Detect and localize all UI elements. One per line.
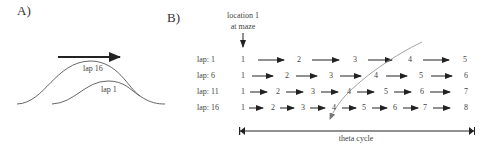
location-label-line1: location 1: [227, 11, 259, 20]
position-number: 4: [374, 71, 378, 80]
panel-b-graphics: [240, 33, 474, 131]
position-number: 5: [419, 71, 423, 80]
row-label-lap6: lap: 6: [197, 71, 215, 80]
curve-label-lap16: lap 16: [83, 64, 103, 73]
position-number: 1: [241, 71, 245, 80]
position-number: 2: [297, 55, 301, 64]
position-number: 6: [464, 71, 468, 80]
curve-label-lap1: lap 1: [101, 85, 117, 94]
position-number: 2: [276, 87, 280, 96]
position-number: 4: [408, 55, 412, 64]
position-number: 4: [332, 103, 336, 112]
position-number: 1: [241, 103, 245, 112]
position-number: 4: [347, 87, 351, 96]
position-number: 3: [311, 87, 315, 96]
location-label-line2: at maze: [231, 22, 256, 31]
panel-a-label: A): [17, 3, 31, 19]
position-number: 3: [353, 55, 357, 64]
position-number: 3: [329, 71, 333, 80]
position-number: 6: [420, 87, 424, 96]
position-number: 2: [271, 103, 275, 112]
position-number: 3: [301, 103, 305, 112]
position-number: 7: [464, 87, 468, 96]
position-number: 1: [241, 87, 245, 96]
position-number: 5: [362, 103, 366, 112]
row-label-lap16: lap: 16: [197, 103, 219, 112]
position-number: 8: [464, 103, 468, 112]
panel-b-label: B): [167, 10, 180, 26]
position-number: 5: [463, 55, 467, 64]
position-number: 1: [241, 55, 245, 64]
row-label-lap11: lap: 11: [197, 87, 219, 96]
phase-precession-line: [330, 42, 422, 119]
row-label-lap1: lap: 1: [197, 55, 215, 64]
place-field-curve-lap1: [52, 81, 140, 104]
position-number: 7: [423, 103, 427, 112]
position-number: 5: [384, 87, 388, 96]
position-number: 2: [285, 71, 289, 80]
theta-cycle-label: theta cycle: [339, 134, 373, 143]
position-number: 6: [393, 103, 397, 112]
